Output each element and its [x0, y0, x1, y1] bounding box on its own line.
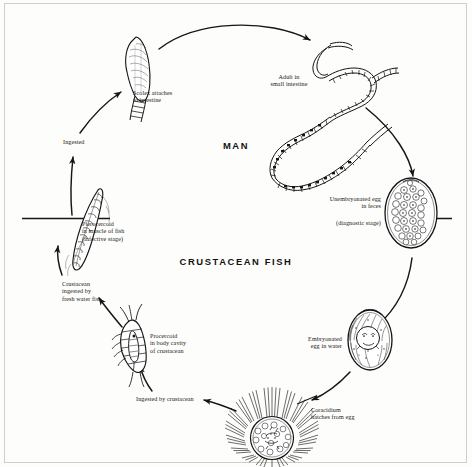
stage-label-scolex-attaches-to-intestine: Scolex attaches to intestine	[133, 90, 199, 105]
scolex-illustration	[126, 37, 150, 122]
stage-label-ingested: Ingested	[63, 139, 107, 146]
stage-label-plerocercoid-in-muscle-of-fish: Plerocercoid in muscle of fish (infectiv…	[82, 221, 156, 243]
arrow-ingested-to-scolex	[80, 92, 121, 133]
stage-label-adult-in-small-intestine: Adult in small intestine	[258, 74, 320, 89]
adult-tapeworm-illustration	[270, 42, 399, 192]
stage-label-diagnostic-stage: (diagnostic stage)	[303, 220, 381, 227]
host-label-crustacean-fish: CRUSTACEAN FISH	[178, 255, 294, 268]
stage-label-unembryonated-egg-in-feces: Unembryonated egg in feces	[303, 196, 381, 211]
stage-label-coracidium-hatches-from-egg: Coracidium hatches from egg	[311, 407, 389, 422]
embryonated-egg-illustration	[348, 310, 392, 371]
stage-label-crustacean-ingested-by-fish: Crustacean ingested by fresh water fish	[62, 281, 132, 303]
diagram-artwork	[0, 0, 472, 467]
procercoid-crustacean-illustration	[112, 304, 146, 387]
arrow-scolex-to-adult	[159, 25, 310, 49]
arrow-fish-to-plerocercoid	[58, 246, 62, 275]
stage-label-ingested-by-crustacean: Ingested by crustacean	[136, 396, 236, 403]
life-cycle-diagram-page: MAN CRUSTACEAN FISH Adult in small intes…	[0, 0, 472, 467]
stage-label-embryonated-egg-in-water: Embryonated egg in water	[292, 336, 342, 351]
host-label-man: MAN	[206, 140, 266, 151]
stage-label-procercoid-in-body-cavity: Procercoid in body cavity of crustacean	[150, 333, 214, 355]
coracidium-illustration	[225, 387, 319, 467]
unembryonated-egg-illustration	[385, 178, 437, 248]
arrow-embryonated-to-coracidium	[312, 372, 350, 400]
arrow-plerocercoid-to-ingested	[71, 157, 73, 215]
arrow-adult-to-egg	[366, 108, 413, 176]
